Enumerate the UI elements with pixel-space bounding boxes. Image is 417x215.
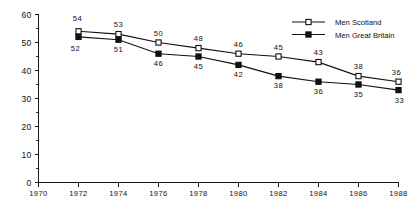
data-point-marker	[76, 29, 81, 34]
data-point-label: 46	[154, 59, 164, 68]
x-tick-label: 1984	[309, 189, 328, 198]
data-point-marker	[396, 88, 401, 93]
y-tick-label: 0	[26, 178, 31, 188]
x-tick-label: 1978	[189, 189, 208, 198]
data-point-marker	[356, 74, 361, 79]
chart-canvas: 0102030405060 19701972197419761978198019…	[0, 0, 417, 215]
data-point-label: 52	[71, 44, 81, 53]
legend-label: Men Scotland	[335, 18, 381, 27]
data-point-label: 38	[354, 62, 364, 71]
data-point-marker	[276, 54, 281, 59]
y-tick-label: 20	[21, 122, 31, 132]
data-point-label: 35	[354, 90, 364, 99]
data-point-label: 42	[234, 70, 244, 79]
data-point-label: 33	[395, 96, 405, 105]
legend-marker	[306, 19, 311, 24]
data-point-label: 36	[314, 87, 324, 96]
y-axis: 0102030405060	[21, 10, 38, 188]
x-axis: 1970197219741976197819801982198419861988	[29, 183, 408, 199]
x-tick-label: 1976	[149, 189, 168, 198]
data-point-marker	[276, 74, 281, 79]
x-tick-label: 1972	[69, 189, 88, 198]
chart-legend: Men ScotlandMen Great Britain	[292, 18, 395, 40]
data-point-label: 46	[234, 40, 244, 49]
data-point-marker	[196, 54, 201, 59]
y-tick-label: 40	[21, 66, 31, 76]
data-point-label: 53	[114, 20, 124, 29]
line-chart: 0102030405060 19701972197419761978198019…	[0, 0, 417, 215]
data-point-marker	[196, 46, 201, 51]
data-point-marker	[356, 82, 361, 87]
data-point-label: 38	[274, 81, 284, 90]
y-tick-label: 10	[21, 150, 31, 160]
data-point-label: 48	[194, 34, 204, 43]
legend-marker	[306, 32, 311, 37]
data-point-marker	[316, 60, 321, 65]
data-point-marker	[316, 79, 321, 84]
data-point-marker	[116, 37, 121, 42]
data-point-label: 45	[274, 43, 284, 52]
data-point-label: 36	[392, 68, 402, 77]
data-point-label: 43	[314, 48, 324, 57]
data-point-marker	[156, 51, 161, 56]
data-point-marker	[156, 40, 161, 45]
x-tick-label: 1982	[269, 189, 288, 198]
x-tick-label: 1988	[389, 189, 408, 198]
data-point-marker	[76, 34, 81, 39]
point-labels-layer: 545350484645433836525146454238363533	[71, 14, 405, 105]
x-tick-label: 1970	[29, 189, 48, 198]
y-tick-label: 30	[21, 94, 31, 104]
legend-label: Men Great Britain	[335, 31, 395, 40]
x-tick-label: 1986	[349, 189, 368, 198]
y-tick-label: 60	[21, 10, 31, 20]
x-tick-label: 1980	[229, 189, 248, 198]
y-tick-label: 50	[21, 38, 31, 48]
data-point-label: 51	[114, 45, 124, 54]
data-point-marker	[116, 32, 121, 37]
x-tick-label: 1974	[109, 189, 128, 198]
data-point-marker	[236, 51, 241, 56]
data-point-label: 45	[194, 62, 204, 71]
data-point-marker	[236, 62, 241, 67]
data-point-marker	[396, 79, 401, 84]
data-point-label: 54	[73, 14, 83, 23]
data-point-label: 50	[154, 29, 164, 38]
